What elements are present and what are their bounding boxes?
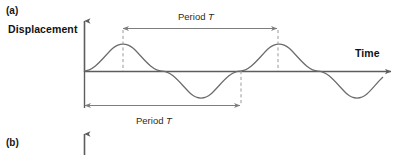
period-label-bottom-text: Period [136,115,166,126]
x-axis-label: Time [355,48,380,59]
period-symbol-bottom: T [166,115,172,126]
period-label-bottom: Period T [136,116,172,126]
period-label-top: Period T [178,12,214,22]
y-axis-label: Displacement [8,24,77,35]
period-label-top-text: Period [178,11,208,22]
panel-b-label: (b) [6,138,19,148]
waveform-figure: (a) Displacement Time Period T Period T … [0,0,401,155]
panel-a-label: (a) [6,6,18,16]
period-symbol-top: T [208,11,214,22]
